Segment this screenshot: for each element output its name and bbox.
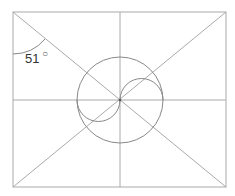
lower-semicircle bbox=[77, 100, 120, 121]
angle-value-label: 51 bbox=[25, 51, 39, 66]
geometry-diagram bbox=[0, 0, 235, 196]
center-point bbox=[119, 99, 122, 102]
degree-symbol: ○ bbox=[42, 48, 48, 59]
